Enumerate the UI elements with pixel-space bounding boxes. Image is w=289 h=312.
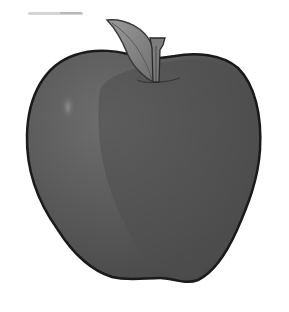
apple-illustration: Grayscale illustration of an apple with … [0,0,289,312]
smudge-mark [28,12,83,15]
apple-highlight [61,94,75,120]
